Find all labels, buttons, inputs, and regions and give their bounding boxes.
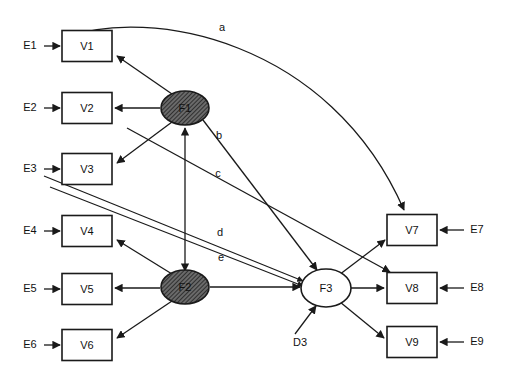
path-label-e: e <box>218 251 224 263</box>
label-v1: V1 <box>80 40 93 52</box>
edge-f2-v6 <box>117 301 172 338</box>
label-f1: F1 <box>179 102 192 114</box>
path-diagram-svg: V1 V2 V3 V4 V5 V6 V7 V8 V9 F1 F2 F3 E1 E… <box>0 0 505 380</box>
path-diagram-canvas: V1 V2 V3 V4 V5 V6 V7 V8 V9 F1 F2 F3 E1 E… <box>0 0 505 380</box>
label-e7: E7 <box>470 223 483 235</box>
edge-f1-v3 <box>117 122 172 163</box>
label-v7: V7 <box>405 224 418 236</box>
label-f3: F3 <box>320 282 333 294</box>
path-label-d: d <box>217 226 223 238</box>
path-label-c: c <box>215 167 221 179</box>
label-v9: V9 <box>405 336 418 348</box>
edge-f1-v1 <box>117 56 172 94</box>
label-e5: E5 <box>23 282 36 294</box>
label-v6: V6 <box>80 339 93 351</box>
edge-f3-v7 <box>339 240 385 275</box>
path-label-a: a <box>219 21 226 33</box>
label-e3: E3 <box>23 162 36 174</box>
label-e1: E1 <box>23 39 36 51</box>
label-v3: V3 <box>80 163 93 175</box>
path-label-b: b <box>216 129 222 141</box>
label-e2: E2 <box>23 101 36 113</box>
edge-f3-v9 <box>340 302 384 338</box>
label-v2: V2 <box>80 102 93 114</box>
label-e9: E9 <box>470 335 483 347</box>
edge-f2-v4 <box>117 240 172 274</box>
residual-arrow-group-left <box>44 46 60 345</box>
edge-d3-f3 <box>295 306 316 334</box>
label-v4: V4 <box>80 225 93 237</box>
residual-arrow-group-right <box>440 230 464 342</box>
label-d3: D3 <box>293 336 307 348</box>
path-coefficient-label-group: a b c d e <box>215 21 226 263</box>
label-f2: F2 <box>179 281 192 293</box>
label-e6: E6 <box>23 338 36 350</box>
label-v5: V5 <box>80 283 93 295</box>
edge-v1-v7-a <box>64 27 404 210</box>
label-e8: E8 <box>470 281 483 293</box>
edge-v2-v8-c <box>127 128 390 272</box>
label-e4: E4 <box>23 224 36 236</box>
label-v8: V8 <box>405 282 418 294</box>
